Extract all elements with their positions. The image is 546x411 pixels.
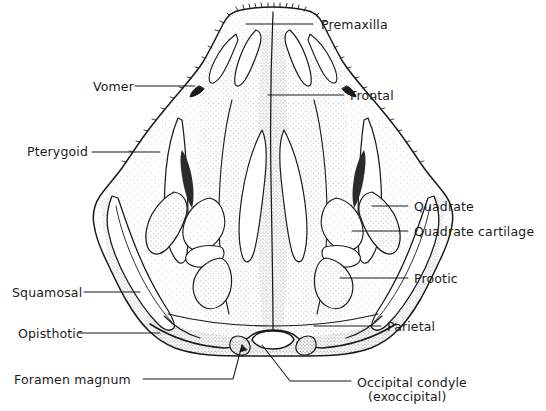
skull-drawing: [79, 0, 466, 411]
label-pterygoid: Pterygoid: [27, 145, 88, 159]
label-quadrate-cartilage: Quadrate cartilage: [414, 225, 534, 239]
label-vomer: Vomer: [93, 80, 134, 94]
label-premaxilla: Premaxilla: [321, 18, 388, 32]
label-occipital-condyle: Occipital condyle: [357, 375, 467, 390]
label-opisthotic: Opisthotic: [18, 327, 83, 341]
label-parietal: Parietal: [387, 320, 435, 334]
label-frontal: Frontal: [350, 89, 394, 103]
label-squamosal: Squamosal: [12, 286, 82, 300]
label-prootic: Prootic: [414, 272, 458, 286]
foramen-magnum: [252, 331, 294, 349]
frog-skull-figure: Premaxilla Frontal Quadrate Quadrate car…: [0, 0, 546, 411]
label-foramen-magnum: Foramen magnum: [14, 373, 131, 387]
label-quadrate: Quadrate: [414, 200, 474, 214]
label-occipital-condyle-sub: (exoccipital): [368, 389, 447, 404]
